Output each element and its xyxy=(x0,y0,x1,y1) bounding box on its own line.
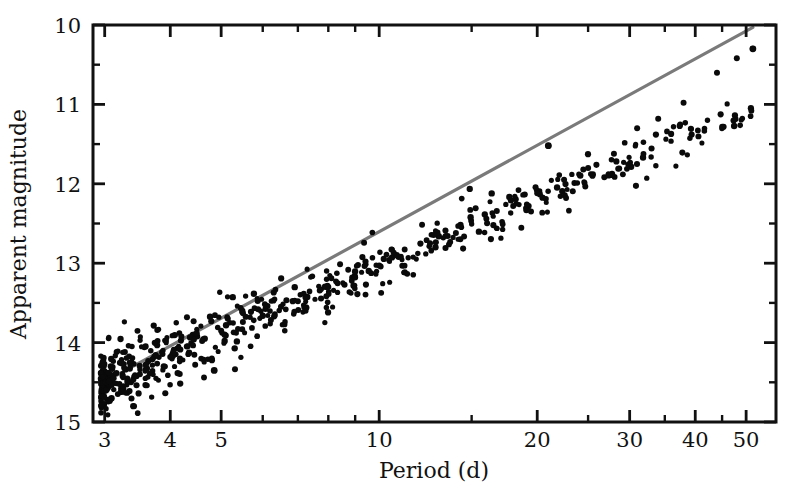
data-point xyxy=(695,128,701,134)
data-point xyxy=(137,367,142,372)
data-point xyxy=(218,328,224,334)
data-point xyxy=(490,222,496,228)
data-point xyxy=(156,378,161,383)
data-point xyxy=(307,289,313,295)
data-point xyxy=(115,391,121,397)
data-point xyxy=(172,364,177,369)
data-point xyxy=(131,403,137,409)
data-point xyxy=(238,355,243,360)
y-tick-label: 11 xyxy=(54,93,81,117)
data-point xyxy=(431,232,437,238)
data-point xyxy=(740,116,746,122)
data-point xyxy=(164,335,169,340)
chart-background xyxy=(0,0,799,500)
data-point xyxy=(213,345,218,350)
data-point xyxy=(352,268,358,274)
data-point xyxy=(130,355,135,360)
data-point xyxy=(345,267,351,273)
data-point xyxy=(230,294,236,300)
data-point xyxy=(111,359,116,364)
data-point xyxy=(191,318,197,324)
data-point xyxy=(524,202,530,208)
x-tick-label: 50 xyxy=(733,428,760,452)
data-point xyxy=(145,374,150,379)
data-point xyxy=(312,297,317,302)
data-point xyxy=(137,371,143,377)
data-point xyxy=(231,345,237,351)
data-point xyxy=(378,290,384,296)
data-point xyxy=(133,382,139,388)
data-point xyxy=(730,117,736,123)
data-point xyxy=(295,298,301,304)
data-point xyxy=(230,320,235,325)
data-point xyxy=(456,237,461,242)
data-point xyxy=(282,319,287,324)
data-point xyxy=(593,162,599,168)
data-point xyxy=(278,275,284,281)
data-point xyxy=(255,306,261,312)
data-point xyxy=(491,214,496,219)
data-point xyxy=(322,320,327,325)
x-tick-label: 20 xyxy=(524,428,551,452)
y-tick-label: 13 xyxy=(54,252,81,276)
data-point xyxy=(117,336,123,342)
data-point xyxy=(340,280,345,285)
data-point xyxy=(151,372,156,377)
data-point xyxy=(249,325,255,331)
data-point xyxy=(326,291,332,297)
data-point xyxy=(370,255,376,261)
data-point xyxy=(417,240,423,246)
data-point xyxy=(361,240,367,246)
data-point xyxy=(191,337,197,343)
data-point xyxy=(176,344,181,349)
data-point xyxy=(377,250,382,255)
data-point xyxy=(415,251,420,256)
data-point xyxy=(143,362,149,368)
data-point xyxy=(562,192,568,198)
data-point xyxy=(135,390,141,396)
data-point xyxy=(248,309,254,315)
data-point xyxy=(467,214,473,220)
data-point xyxy=(575,180,580,185)
data-point xyxy=(398,254,404,260)
data-point xyxy=(98,410,104,416)
data-point xyxy=(234,338,240,344)
data-point xyxy=(248,343,254,349)
data-point xyxy=(362,263,368,269)
data-point xyxy=(232,366,238,372)
data-point xyxy=(135,328,141,334)
data-point xyxy=(500,227,505,232)
data-point xyxy=(305,267,310,272)
data-point xyxy=(634,125,640,131)
data-point xyxy=(177,371,183,377)
data-point xyxy=(581,179,586,184)
data-point xyxy=(216,315,221,320)
data-point xyxy=(278,304,284,310)
data-point xyxy=(668,131,674,137)
x-tick-label: 10 xyxy=(366,428,393,452)
data-point xyxy=(208,318,214,324)
data-point xyxy=(272,313,277,318)
data-point xyxy=(303,299,308,304)
data-point xyxy=(489,190,495,196)
data-point xyxy=(702,128,708,134)
data-point xyxy=(148,348,154,354)
data-point xyxy=(124,355,130,361)
data-point xyxy=(387,280,392,285)
data-point xyxy=(384,252,390,258)
data-point xyxy=(414,257,419,262)
data-point xyxy=(644,176,649,181)
data-point xyxy=(483,216,489,222)
data-point xyxy=(671,124,676,129)
data-point xyxy=(149,394,154,399)
data-point xyxy=(503,202,508,207)
data-point xyxy=(303,308,309,314)
data-point xyxy=(330,304,335,309)
data-point xyxy=(174,320,179,325)
data-point xyxy=(103,387,109,393)
data-point xyxy=(685,152,690,157)
data-point xyxy=(259,297,264,302)
data-point xyxy=(473,205,479,211)
data-point xyxy=(221,341,226,346)
data-point xyxy=(720,124,726,130)
